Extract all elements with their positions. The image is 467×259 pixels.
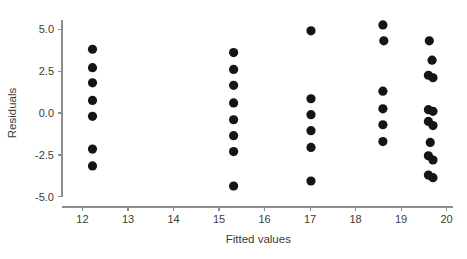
x-axis: 121314151617181920	[62, 207, 453, 225]
x-tick-label: 20	[440, 213, 452, 225]
data-point	[88, 78, 97, 87]
data-point	[229, 81, 238, 90]
data-point	[378, 120, 387, 129]
data-point	[428, 173, 437, 182]
data-point	[428, 107, 437, 116]
data-point	[426, 138, 435, 147]
data-point	[88, 112, 97, 121]
data-point	[428, 155, 437, 164]
data-point	[229, 48, 238, 57]
data-point	[229, 147, 238, 156]
data-point	[88, 145, 97, 154]
data-point	[88, 96, 97, 105]
y-tick-label: -2.5	[35, 149, 54, 161]
data-point	[427, 56, 436, 65]
data-point	[306, 126, 315, 135]
data-point	[378, 137, 387, 146]
data-point	[428, 73, 437, 82]
data-point	[306, 94, 315, 103]
data-points-layer	[88, 20, 438, 190]
x-tick-label: 18	[349, 213, 361, 225]
data-point	[229, 181, 238, 190]
x-tick-label: 15	[213, 213, 225, 225]
data-point	[229, 115, 238, 124]
data-point	[378, 104, 387, 113]
data-point	[306, 176, 315, 185]
x-tick-label: 17	[304, 213, 316, 225]
y-tick-label: 5.0	[39, 23, 54, 35]
y-tick-label: -5.0	[35, 191, 54, 203]
data-point	[378, 20, 387, 29]
data-point	[88, 63, 97, 72]
data-point	[306, 110, 315, 119]
x-tick-label: 19	[395, 213, 407, 225]
data-point	[428, 121, 437, 130]
data-point	[229, 131, 238, 140]
data-point	[306, 143, 315, 152]
x-tick-label: 13	[122, 213, 134, 225]
data-point	[378, 87, 387, 96]
chart-canvas: -5.0-2.50.02.55.0 121314151617181920 Fit…	[0, 0, 467, 259]
x-axis-title: Fitted values	[226, 233, 291, 245]
data-point	[88, 161, 97, 170]
x-tick-label: 14	[167, 213, 179, 225]
data-point	[425, 36, 434, 45]
data-point	[229, 98, 238, 107]
residuals-scatter-plot: -5.0-2.50.02.55.0 121314151617181920 Fit…	[0, 0, 467, 259]
y-axis: -5.0-2.50.02.55.0	[35, 20, 62, 203]
y-tick-label: 2.5	[39, 65, 54, 77]
x-tick-label: 16	[258, 213, 270, 225]
data-point	[88, 45, 97, 54]
data-point	[379, 36, 388, 45]
x-tick-label: 12	[76, 213, 88, 225]
data-point	[306, 26, 315, 35]
y-axis-title: Residuals	[6, 88, 18, 139]
data-point	[229, 65, 238, 74]
y-tick-label: 0.0	[39, 107, 54, 119]
